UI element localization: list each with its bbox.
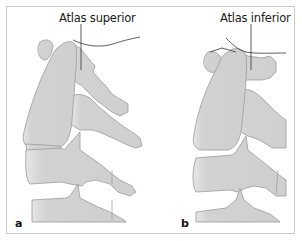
dens-b [193, 49, 246, 150]
atlas-anterior-arch-a [38, 40, 53, 60]
c4-body-b [196, 188, 280, 222]
dens-a [23, 42, 76, 149]
panel-b-bones [193, 49, 286, 222]
label-atlas-inferior: Atlas inferior [220, 11, 291, 25]
label-atlas-superior: Atlas superior [59, 11, 136, 25]
panel-letter-b: b [181, 217, 189, 230]
panel-letter-a: a [15, 217, 22, 230]
cervical-spine-illustration [0, 0, 302, 241]
atlas-curve-line-a [73, 37, 140, 46]
panel-a-bones [23, 40, 142, 222]
